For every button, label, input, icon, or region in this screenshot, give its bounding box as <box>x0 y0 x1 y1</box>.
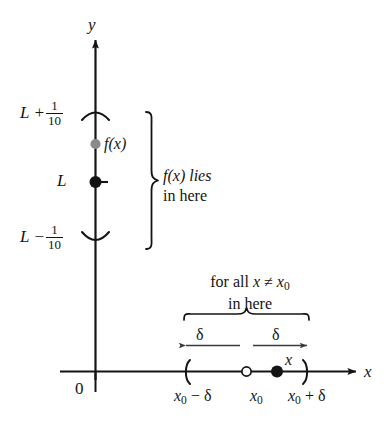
delta-annotation-point-sub: 0 <box>284 280 290 292</box>
x-tick-left-delta: δ <box>204 387 212 404</box>
lower-bound-prefix: L − <box>20 227 45 246</box>
y-axis-label: y <box>88 16 96 33</box>
x-tick-left-op: − <box>187 387 204 404</box>
upper-bound-fraction: 110 <box>46 99 63 127</box>
delta-left-label: δ <box>196 327 204 343</box>
delta-annotation-var: x <box>253 273 260 290</box>
x-tick-right-op: + <box>301 387 318 404</box>
delta-annotation-relation: ≠ <box>260 273 277 290</box>
epsilon-band-brace <box>146 112 158 249</box>
function-value-point <box>90 139 100 149</box>
x0-open-circle <box>242 367 251 376</box>
delta-annotation-prefix: for all <box>210 273 253 290</box>
x-tick-label-center: x0 <box>250 388 263 407</box>
epsilon-band-annotation-line1: f(x) lies <box>163 167 211 184</box>
epsilon-band-annotation: f(x) lies in here <box>163 166 211 207</box>
upper-bound-label: L +110 <box>20 100 64 128</box>
x-axis-label: x <box>364 363 372 380</box>
x-filled-point <box>271 366 283 378</box>
x-tick-label-right: x0 + δ <box>288 388 325 407</box>
delta-right-label: δ <box>272 327 280 343</box>
x-tick-label-left: x0 − δ <box>174 388 211 407</box>
limit-definition-figure <box>0 0 384 430</box>
delta-interval-annotation: for all x ≠ x0 in here <box>175 272 325 315</box>
x-tick-right-delta: δ <box>318 387 326 404</box>
upper-bound-numerator: 1 <box>46 99 63 113</box>
upper-bound-denominator: 10 <box>46 113 63 128</box>
limit-label: L <box>57 172 66 189</box>
upper-bound-prefix: L + <box>20 103 45 122</box>
x-tick-center-sub: 0 <box>257 394 263 406</box>
x-point-label: x <box>285 352 292 368</box>
origin-label: 0 <box>75 380 84 397</box>
lower-bound-denominator: 10 <box>46 237 63 252</box>
lower-bound-label: L −110 <box>20 224 64 252</box>
function-value-label: f(x) <box>104 136 126 152</box>
delta-annotation-point: x <box>277 273 284 290</box>
delta-annotation-line2: in here <box>228 295 272 312</box>
epsilon-band-annotation-line2: in here <box>163 187 207 204</box>
limit-value-point <box>90 176 102 188</box>
lower-bound-fraction: 110 <box>46 223 63 251</box>
lower-bound-numerator: 1 <box>46 223 63 237</box>
